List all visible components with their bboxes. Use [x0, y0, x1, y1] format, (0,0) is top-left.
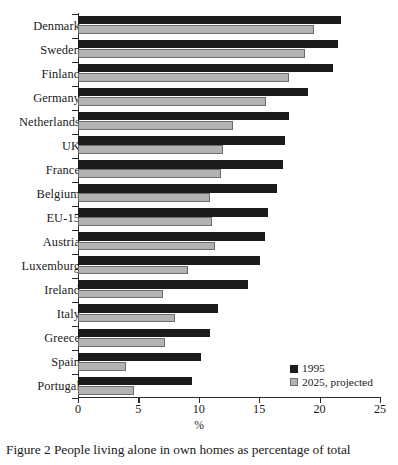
- bar-2025: [78, 242, 215, 251]
- category-label: Belgium: [37, 188, 80, 200]
- y-axis-tick: [72, 206, 78, 207]
- bar-1995: [78, 304, 218, 312]
- bar-2025: [78, 362, 126, 371]
- category-label: Sweden: [40, 43, 80, 55]
- category-label: Germany: [33, 92, 80, 104]
- y-axis-tick: [72, 278, 78, 279]
- legend-label: 2025, projected: [302, 376, 373, 390]
- y-axis-tick: [72, 62, 78, 63]
- bar-2025: [78, 49, 305, 58]
- category-label: Ireland: [44, 284, 80, 296]
- y-axis-tick: [72, 86, 78, 87]
- bar-2025: [78, 217, 212, 226]
- bar-2025: [78, 121, 233, 130]
- category-label: Spain: [51, 356, 80, 368]
- y-axis-tick: [72, 38, 78, 39]
- bar-2025: [78, 25, 314, 34]
- bar-1995: [78, 353, 201, 361]
- bar-1995: [78, 256, 260, 264]
- bar-2025: [78, 193, 210, 202]
- bar-1995: [78, 208, 268, 216]
- bar-row: Austria: [0, 230, 398, 254]
- bar-2025: [78, 314, 175, 323]
- y-axis-tick: [72, 254, 78, 255]
- bar-1995: [78, 64, 333, 72]
- category-label: Denmark: [33, 19, 80, 31]
- bar-row: France: [0, 158, 398, 182]
- x-axis-tick-label: 5: [135, 403, 141, 415]
- bar-row: Greece: [0, 326, 398, 350]
- category-label: Italy: [57, 308, 80, 320]
- bar-2025: [78, 266, 188, 275]
- x-axis-tick-label: 20: [314, 403, 326, 415]
- x-axis-title: %: [0, 420, 398, 432]
- legend-label: 1995: [302, 362, 325, 376]
- bar-row: Ireland: [0, 278, 398, 302]
- bar-1995: [78, 329, 210, 337]
- bar-row: Germany: [0, 86, 398, 110]
- figure-container: DenmarkSwedenFinlandGermanyNetherlandsUK…: [0, 0, 398, 465]
- bar-row: Finland: [0, 62, 398, 86]
- category-label: Greece: [44, 332, 80, 344]
- bar-2025: [78, 169, 221, 178]
- bar-1995: [78, 160, 283, 168]
- bar-row: EU-15: [0, 206, 398, 230]
- figure-caption: Figure 2 People living alone in own home…: [6, 442, 398, 458]
- y-axis-tick: [72, 110, 78, 111]
- bar-1995: [78, 88, 308, 96]
- y-axis-tick: [72, 158, 78, 159]
- bar-row: Denmark: [0, 14, 398, 38]
- bar-row: Belgium: [0, 182, 398, 206]
- bar-1995: [78, 232, 265, 240]
- y-axis-tick: [72, 182, 78, 183]
- category-label: France: [46, 164, 80, 176]
- bar-1995: [78, 136, 285, 144]
- category-label: Austria: [43, 236, 80, 248]
- category-label: EU-15: [46, 212, 80, 224]
- bar-2025: [78, 97, 266, 106]
- legend-swatch-1995-icon: [290, 365, 298, 373]
- bar-1995: [78, 280, 248, 288]
- y-axis-tick: [72, 14, 78, 15]
- category-label: Finland: [41, 68, 80, 80]
- bar-2025: [78, 145, 223, 154]
- y-axis-tick: [72, 326, 78, 327]
- bar-row: Sweden: [0, 38, 398, 62]
- x-axis-tick-label: 10: [193, 403, 205, 415]
- category-label: Portugal: [37, 380, 80, 392]
- x-axis-tick-label: 15: [253, 403, 265, 415]
- bar-row: Italy: [0, 302, 398, 326]
- legend-swatch-2025-icon: [290, 378, 298, 386]
- chart-legend: 19952025, projected: [290, 362, 373, 389]
- x-axis-tick-label: 25: [374, 403, 386, 415]
- bar-1995: [78, 40, 338, 48]
- chart-plot-area: DenmarkSwedenFinlandGermanyNetherlandsUK…: [0, 0, 398, 410]
- y-axis-tick: [72, 374, 78, 375]
- bar-2025: [78, 338, 165, 347]
- category-label: Netherlands: [19, 116, 80, 128]
- bar-1995: [78, 16, 341, 24]
- bar-2025: [78, 386, 134, 395]
- y-axis-tick: [72, 302, 78, 303]
- legend-entry: 1995: [290, 362, 373, 376]
- bar-2025: [78, 290, 163, 299]
- bar-1995: [78, 112, 289, 120]
- y-axis-tick: [72, 230, 78, 231]
- bar-row: Luxemburg: [0, 254, 398, 278]
- category-label: Luxemburg: [22, 260, 81, 272]
- y-axis-tick: [72, 350, 78, 351]
- bar-row: Netherlands: [0, 110, 398, 134]
- y-axis-tick: [72, 134, 78, 135]
- bar-row: UK: [0, 134, 398, 158]
- bar-1995: [78, 377, 192, 385]
- bar-2025: [78, 73, 289, 82]
- bar-1995: [78, 184, 277, 192]
- x-axis-tick-label: 0: [75, 403, 81, 415]
- legend-entry: 2025, projected: [290, 376, 373, 390]
